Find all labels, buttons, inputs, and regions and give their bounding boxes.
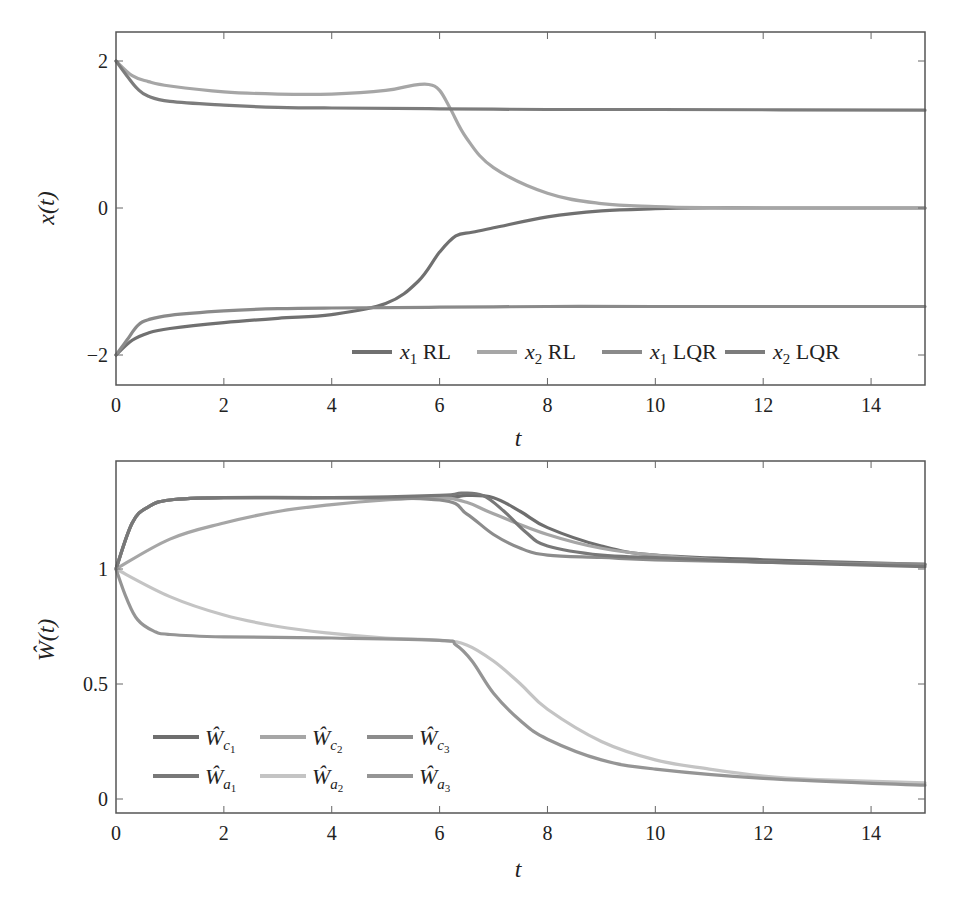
- figure: 02468101214−202 x(t) t x1 RLx2 RLx1 LQRx…: [0, 0, 953, 903]
- x-tick-label: 14: [861, 822, 881, 844]
- legend-label: Ŵc3: [419, 725, 450, 755]
- y-tick-label: 0.5: [83, 673, 108, 695]
- legend-label: x1 RL: [399, 339, 451, 367]
- legend-label: x2 LQR: [772, 339, 840, 367]
- y-tick-label: 1: [98, 558, 108, 580]
- x-tick-label: 8: [542, 822, 552, 844]
- series-line-bottom-5: [116, 569, 925, 783]
- top-x-axis-label: t: [515, 425, 523, 451]
- top-y-axis-label: x(t): [33, 191, 59, 225]
- x-tick-label: 12: [753, 822, 773, 844]
- bottom-y-axis-label: Ŵ(t): [33, 619, 59, 662]
- x-tick-label: 6: [435, 822, 445, 844]
- series-line-top-4: [116, 61, 925, 110]
- y-tick-label: 0: [98, 197, 108, 219]
- x-tick-label: 14: [861, 394, 881, 416]
- bottom-plot-curves: [116, 493, 925, 785]
- x-tick-label: 0: [111, 394, 121, 416]
- series-line-bottom-3: [116, 497, 925, 569]
- x-tick-label: 8: [542, 394, 552, 416]
- x-tick-label: 10: [645, 394, 665, 416]
- bottom-legend: Ŵc1Ŵc2Ŵc3Ŵa1Ŵa2Ŵa3: [153, 725, 451, 794]
- x-tick-label: 4: [327, 394, 337, 416]
- top-plot-curves: [116, 61, 925, 355]
- legend-label: Ŵc2: [312, 725, 343, 755]
- series-line-top-2: [116, 61, 925, 208]
- legend-label: Ŵa2: [312, 764, 343, 794]
- series-line-top-1: [116, 208, 925, 355]
- series-line-bottom-4: [116, 493, 925, 569]
- bottom-plot: 0246810121400.51 Ŵ(t) t Ŵc1Ŵc2Ŵc3Ŵa1Ŵa2Ŵ…: [33, 461, 926, 882]
- legend-label: Ŵc1: [205, 725, 236, 755]
- x-tick-label: 0: [111, 822, 121, 844]
- legend-label: x2 RL: [524, 339, 576, 367]
- x-tick-label: 10: [645, 822, 665, 844]
- x-tick-label: 12: [753, 394, 773, 416]
- y-tick-label: −2: [87, 344, 108, 366]
- legend-label: x1 LQR: [649, 339, 717, 367]
- bottom-x-axis-label: t: [515, 856, 523, 882]
- legend-label: Ŵa1: [205, 764, 236, 794]
- series-line-bottom-6: [116, 569, 925, 785]
- top-plot: 02468101214−202 x(t) t x1 RLx2 RLx1 LQRx…: [33, 32, 926, 451]
- x-tick-label: 6: [435, 394, 445, 416]
- x-tick-label: 2: [219, 394, 229, 416]
- series-line-bottom-1: [116, 495, 925, 569]
- x-tick-label: 2: [219, 822, 229, 844]
- top-legend: x1 RLx2 RLx1 LQRx2 LQR: [352, 339, 840, 367]
- legend-label: Ŵa3: [419, 764, 451, 794]
- y-tick-label: 2: [98, 50, 108, 72]
- series-line-bottom-2: [116, 498, 925, 569]
- y-tick-label: 0: [98, 788, 108, 810]
- x-tick-label: 4: [327, 822, 337, 844]
